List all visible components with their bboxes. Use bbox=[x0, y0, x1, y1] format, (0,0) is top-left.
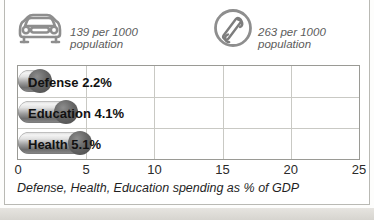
bar-row: Education 4.1% bbox=[18, 97, 359, 128]
stat-cars-line2: population bbox=[70, 38, 138, 51]
stat-telephones-line1: 263 per 1000 bbox=[258, 26, 326, 38]
bottom-strip bbox=[0, 208, 374, 220]
bar-label-health: Health 5.1% bbox=[28, 136, 101, 151]
x-tick-25: 25 bbox=[352, 162, 366, 177]
infographic-panel: 139 per 1000 population 263 per 1000 pop… bbox=[0, 0, 374, 220]
bar-row: Health 5.1% bbox=[18, 128, 359, 159]
bar-label-education: Education 4.1% bbox=[28, 105, 124, 120]
stat-cars: 139 per 1000 population bbox=[12, 6, 138, 63]
x-tick-0: 0 bbox=[14, 162, 21, 177]
chart-caption: Defense, Health, Education spending as %… bbox=[17, 181, 299, 195]
stat-cars-text: 139 per 1000 population bbox=[70, 6, 138, 63]
car-icon bbox=[12, 6, 68, 50]
x-tick-20: 20 bbox=[284, 162, 298, 177]
stat-telephones-line2: population bbox=[258, 38, 326, 51]
stat-cars-line1: 139 per 1000 bbox=[70, 26, 138, 38]
telephone-icon bbox=[210, 6, 256, 50]
stats-row: 139 per 1000 population 263 per 1000 pop… bbox=[12, 6, 364, 54]
x-tick-15: 15 bbox=[215, 162, 229, 177]
bar-row: Defense 2.2% bbox=[18, 66, 359, 97]
x-tick-5: 5 bbox=[83, 162, 90, 177]
stat-telephones: 263 per 1000 population bbox=[210, 6, 326, 63]
stat-telephones-text: 263 per 1000 population bbox=[258, 6, 326, 63]
bar-label-defense: Defense 2.2% bbox=[28, 74, 112, 89]
x-tick-10: 10 bbox=[147, 162, 161, 177]
x-axis: 0510152025 bbox=[0, 162, 374, 180]
bar-chart-plot-area: Defense 2.2%Education 4.1%Health 5.1% bbox=[17, 65, 360, 160]
